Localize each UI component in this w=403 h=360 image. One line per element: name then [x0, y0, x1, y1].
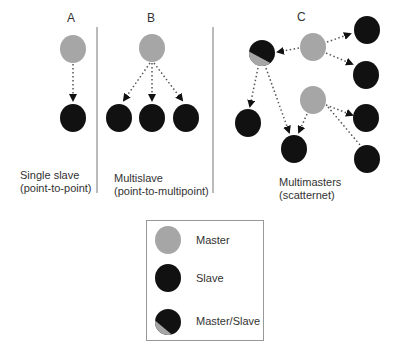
slave-node: [60, 104, 86, 132]
legend-master-label: Master: [196, 234, 230, 247]
legend-master-swatch: [155, 226, 181, 254]
slave-node: [354, 145, 380, 173]
master-node: [300, 86, 326, 114]
legend-master-slave-label: Master/Slave: [196, 315, 260, 328]
master-slave-node: [246, 37, 278, 69]
slave-node: [353, 104, 379, 132]
panel-b-label: B: [147, 11, 155, 25]
panel-a-caption: Single slave (point-to-point): [20, 169, 92, 195]
slave-node: [354, 16, 380, 44]
master-node: [139, 34, 165, 62]
panel-b-caption: Multislave (point-to-multipoint): [114, 172, 209, 198]
legend-slave-swatch: [155, 264, 181, 292]
master-node: [60, 35, 86, 63]
slave-node: [173, 104, 199, 132]
slave-node: [353, 61, 379, 89]
panel-c-caption: Multimasters (scatternet): [279, 176, 341, 202]
master-node: [300, 33, 326, 61]
slave-node: [235, 109, 261, 137]
panel-a-label: A: [67, 11, 75, 25]
slave-node: [106, 104, 132, 132]
panel-c-label: C: [297, 10, 306, 24]
panel-a-topology: [60, 35, 86, 132]
slave-node: [281, 135, 307, 163]
slave-node: [139, 104, 165, 132]
legend-slave-label: Slave: [196, 272, 224, 285]
panel-c-topology: [235, 16, 380, 173]
panel-b-topology: [106, 34, 199, 132]
